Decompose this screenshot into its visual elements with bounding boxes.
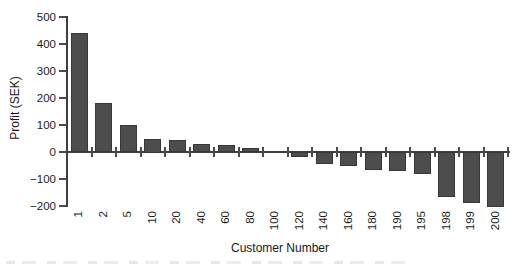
x-tick-label: 60 bbox=[219, 211, 232, 224]
y-tick-mark bbox=[59, 205, 66, 207]
x-tick-label: 1 bbox=[72, 211, 85, 217]
x-tick-label: 160 bbox=[342, 211, 355, 230]
x-tick-mark bbox=[483, 147, 485, 157]
scanned-figure-page: Profit (SEK) 5004003002001000−100−200 12… bbox=[0, 0, 515, 266]
bar-customer-190 bbox=[389, 152, 406, 171]
profit-by-customer-bar-chart: Profit (SEK) 5004003002001000−100−200 12… bbox=[0, 0, 515, 266]
y-tick-label: 100 bbox=[16, 120, 56, 131]
x-tick-label: 195 bbox=[415, 211, 428, 230]
bar-customer-40 bbox=[193, 144, 210, 152]
x-tick-mark bbox=[115, 147, 117, 157]
x-tick-mark bbox=[262, 147, 264, 157]
x-tick-mark bbox=[385, 147, 387, 157]
bar-customer-160 bbox=[340, 152, 357, 166]
bar-customer-180 bbox=[365, 152, 382, 170]
y-tick-mark bbox=[59, 70, 66, 72]
y-tick-label: −200 bbox=[16, 201, 56, 212]
bar-customer-80 bbox=[242, 148, 259, 152]
bar-customer-10 bbox=[144, 139, 161, 153]
y-tick-mark bbox=[59, 16, 66, 18]
x-tick-mark bbox=[434, 147, 436, 157]
bar-customer-20 bbox=[169, 140, 186, 152]
x-tick-mark bbox=[238, 147, 240, 157]
bar-customer-140 bbox=[316, 152, 333, 164]
y-tick-label: −100 bbox=[16, 174, 56, 185]
y-tick-label: 400 bbox=[16, 39, 56, 50]
bar-customer-5 bbox=[120, 125, 137, 152]
x-tick-mark bbox=[287, 147, 289, 157]
y-tick-label: 200 bbox=[16, 93, 56, 104]
x-tick-mark bbox=[311, 147, 313, 157]
y-tick-mark bbox=[59, 97, 66, 99]
x-tick-label: 5 bbox=[121, 211, 134, 217]
x-tick-label: 20 bbox=[170, 211, 183, 224]
x-tick-mark bbox=[213, 147, 215, 157]
x-axis-title: Customer Number bbox=[180, 241, 380, 255]
y-tick-label: 500 bbox=[16, 12, 56, 23]
x-tick-label: 100 bbox=[268, 211, 281, 230]
x-tick-label: 180 bbox=[366, 211, 379, 230]
bar-customer-120 bbox=[291, 152, 308, 157]
x-tick-label: 199 bbox=[464, 211, 477, 230]
y-tick-mark bbox=[59, 43, 66, 45]
bar-customer-1 bbox=[71, 33, 88, 152]
x-tick-mark bbox=[458, 147, 460, 157]
x-tick-label: 120 bbox=[293, 211, 306, 230]
y-tick-mark bbox=[59, 178, 66, 180]
bar-customer-2 bbox=[95, 103, 112, 152]
x-tick-label: 140 bbox=[317, 211, 330, 230]
x-tick-mark bbox=[91, 147, 93, 157]
bar-customer-199 bbox=[463, 152, 480, 203]
x-tick-label: 10 bbox=[146, 211, 159, 224]
bar-customer-60 bbox=[218, 145, 235, 152]
bar-customer-198 bbox=[438, 152, 455, 197]
x-tick-mark bbox=[409, 147, 411, 157]
y-tick-label: 300 bbox=[16, 66, 56, 77]
y-tick-label: 0 bbox=[16, 147, 56, 158]
y-tick-mark bbox=[59, 151, 66, 153]
x-tick-mark bbox=[507, 147, 509, 157]
x-tick-label: 40 bbox=[195, 211, 208, 224]
y-tick-mark bbox=[59, 124, 66, 126]
x-tick-mark bbox=[140, 147, 142, 157]
y-axis-line bbox=[66, 16, 68, 207]
x-tick-mark bbox=[189, 147, 191, 157]
x-tick-label: 80 bbox=[244, 211, 257, 224]
x-tick-label: 2 bbox=[97, 211, 110, 217]
x-tick-label: 198 bbox=[440, 211, 453, 230]
bar-customer-195 bbox=[414, 152, 431, 174]
x-tick-label: 200 bbox=[489, 211, 502, 230]
cropped-caption-remnant bbox=[6, 261, 410, 264]
bar-customer-200 bbox=[487, 152, 504, 207]
x-tick-label: 190 bbox=[391, 211, 404, 230]
x-tick-mark bbox=[336, 147, 338, 157]
x-tick-mark bbox=[360, 147, 362, 157]
x-tick-mark bbox=[164, 147, 166, 157]
